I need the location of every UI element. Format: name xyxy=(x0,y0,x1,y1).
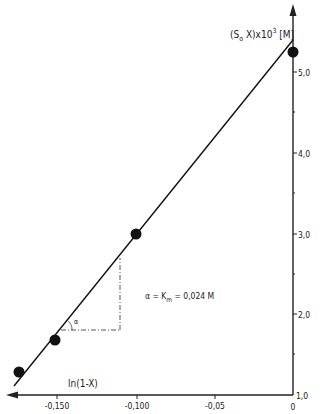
y-tick-3: 3,0 xyxy=(298,230,310,240)
angle-arc xyxy=(68,321,72,330)
y-axis-label: (So X)x103 [M] xyxy=(230,27,294,43)
y-axis-arrow-icon xyxy=(290,4,297,16)
data-point-3 xyxy=(131,229,142,240)
data-points xyxy=(14,47,299,378)
fit-line xyxy=(14,40,293,386)
angle-label: α xyxy=(74,318,78,326)
data-point-2 xyxy=(50,335,61,346)
x-axis-label: ln(1-X) xyxy=(68,378,98,389)
x-tick-labels: -0,150 -0,100 -0,05 0 xyxy=(45,401,296,412)
data-point-4 xyxy=(288,47,299,58)
x-tick-4: 0 xyxy=(291,402,296,412)
slope-triangle xyxy=(61,258,120,330)
y-tick-4: 4,0 xyxy=(298,149,310,159)
x-tick-2: -0,100 xyxy=(125,401,150,411)
x-tick-1: -0,150 xyxy=(45,401,70,411)
y-tick-2: 2,0 xyxy=(298,310,310,320)
x-axis-arrow-icon xyxy=(6,392,18,399)
data-point-1 xyxy=(14,367,25,378)
slope-annotation: α = Km = 0,024 M xyxy=(145,291,214,304)
chart: 1,0 2,0 3,0 4,0 5,0 -0,150 -0,100 -0,05 … xyxy=(0,0,321,414)
y-tick-labels: 1,0 2,0 3,0 4,0 5,0 xyxy=(296,68,310,401)
x-tick-3: -0,05 xyxy=(205,401,225,411)
y-tick-1: 1,0 xyxy=(296,391,308,401)
y-tick-5: 5,0 xyxy=(298,68,310,78)
